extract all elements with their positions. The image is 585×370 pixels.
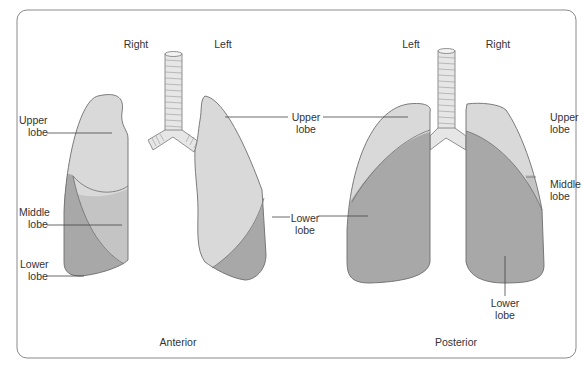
posterior-side-left-label: Left: [396, 38, 426, 50]
label-line-2: lobe: [550, 190, 581, 202]
label-line-2: lobe: [288, 224, 322, 236]
label-line-1: Middle: [550, 178, 581, 190]
posterior-right-lower-lobe-label: Lower lobe: [488, 297, 522, 321]
label-line-1: Upper: [288, 111, 324, 123]
label-line-2: lobe: [19, 126, 48, 138]
posterior-right-middle-lobe-label: Middle lobe: [550, 178, 581, 202]
anterior-left-lower-lobe-label: Lower lobe: [288, 212, 322, 236]
label-line-1: Upper: [550, 111, 579, 123]
anterior-side-right-label: Right: [116, 38, 156, 50]
posterior-caption: Posterior: [426, 336, 486, 348]
label-line-1: Upper: [19, 114, 48, 126]
label-line-1: Lower: [20, 258, 49, 270]
label-line-1: Middle: [19, 206, 50, 218]
anterior-caption: Anterior: [148, 336, 208, 348]
label-line-2: lobe: [19, 218, 50, 230]
anterior-right-middle-lobe-label: Middle lobe: [19, 206, 50, 230]
label-line-2: lobe: [550, 123, 579, 135]
anterior-right-upper-lobe-label: Upper lobe: [19, 114, 48, 138]
posterior-side-right-label: Right: [478, 38, 518, 50]
anterior-right-lower-lobe-label: Lower lobe: [20, 258, 49, 282]
posterior-right-upper-lobe-label: Upper lobe: [550, 111, 579, 135]
label-line-1: Lower: [288, 212, 322, 224]
label-line-2: lobe: [20, 270, 49, 282]
label-line-2: lobe: [288, 123, 324, 135]
anterior-side-left-label: Left: [208, 38, 238, 50]
anterior-left-upper-lobe-label: Upper lobe: [288, 111, 324, 135]
label-line-2: lobe: [488, 309, 522, 321]
label-line-1: Lower: [488, 297, 522, 309]
